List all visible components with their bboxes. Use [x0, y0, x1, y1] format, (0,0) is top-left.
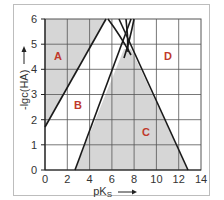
region-b-label: B — [74, 99, 82, 111]
svg-text:6: 6 — [109, 173, 115, 185]
region-c-label: C — [142, 126, 150, 138]
svg-text:1: 1 — [31, 139, 37, 151]
x-tick-labels: 0 2 4 6 8 10 12 14 — [42, 173, 207, 185]
svg-text:8: 8 — [131, 173, 137, 185]
region-d-label: D — [164, 50, 172, 62]
svg-text:5: 5 — [31, 38, 37, 50]
y-axis-arrow-icon — [22, 46, 27, 64]
svg-text:2: 2 — [64, 173, 70, 185]
svg-text:12: 12 — [173, 173, 185, 185]
svg-text:3: 3 — [31, 88, 37, 100]
chart-svg: 0 1 2 3 4 5 6 0 2 4 6 8 10 12 14 A B C D… — [0, 0, 224, 200]
svg-text:4: 4 — [31, 63, 37, 75]
region-a-label: A — [54, 50, 62, 62]
svg-text:0: 0 — [31, 164, 37, 176]
y-axis-label: -lgc(HA) — [18, 70, 30, 110]
svg-text:0: 0 — [42, 173, 48, 185]
y-tick-labels: 0 1 2 3 4 5 6 — [31, 13, 37, 176]
svg-text:14: 14 — [195, 173, 207, 185]
region-c-shade — [75, 49, 188, 170]
x-axis-label: pKS — [93, 185, 112, 199]
svg-text:10: 10 — [150, 173, 162, 185]
x-axis-arrow-icon — [118, 190, 137, 195]
svg-text:6: 6 — [31, 13, 37, 25]
svg-text:4: 4 — [87, 173, 93, 185]
svg-text:2: 2 — [31, 114, 37, 126]
